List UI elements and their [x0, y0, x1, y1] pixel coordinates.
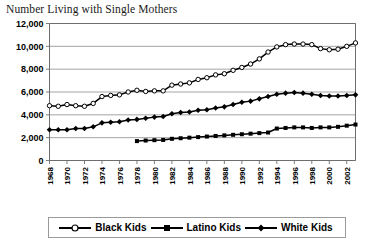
data-point	[82, 126, 88, 132]
data-point	[196, 77, 200, 81]
data-point	[73, 126, 79, 132]
data-point	[56, 104, 60, 108]
data-point	[213, 105, 219, 111]
data-point	[108, 119, 114, 125]
data-point	[47, 104, 51, 108]
data-point	[222, 104, 228, 110]
ytick-label: 12,000	[16, 19, 44, 29]
data-point	[99, 120, 105, 126]
ytick-label: 10,000	[16, 42, 44, 52]
data-point	[292, 42, 296, 46]
data-point	[239, 99, 245, 105]
data-point	[143, 89, 147, 93]
data-point	[301, 125, 305, 129]
data-point	[310, 126, 314, 130]
data-point	[310, 42, 314, 46]
data-point	[345, 44, 349, 48]
data-point	[152, 138, 156, 142]
ytick-label: 8,000	[21, 64, 44, 74]
data-point	[135, 88, 139, 92]
data-point	[64, 127, 70, 133]
data-point	[100, 94, 104, 98]
series-black-kids	[47, 41, 357, 109]
open-circle-icon	[58, 222, 92, 234]
data-point	[152, 89, 156, 93]
data-point	[266, 131, 270, 135]
data-point	[354, 123, 358, 127]
data-point	[125, 117, 131, 123]
data-point	[326, 93, 332, 99]
data-point	[170, 137, 174, 141]
data-point	[345, 124, 349, 128]
xtick-label: 1992	[256, 166, 265, 184]
data-point	[292, 90, 298, 96]
data-point	[117, 93, 121, 97]
data-point	[292, 125, 296, 129]
series-line	[137, 125, 356, 142]
series-line	[50, 93, 356, 130]
data-point	[353, 41, 357, 45]
data-point	[195, 107, 201, 113]
legend-item-white-kids[interactable]: White Kids	[244, 222, 336, 234]
data-point	[161, 89, 165, 93]
data-point	[249, 132, 253, 136]
xtick-label: 1994	[273, 166, 282, 184]
data-point	[169, 111, 175, 117]
data-point	[284, 126, 288, 130]
xtick-label: 2002	[343, 166, 352, 184]
data-point	[257, 96, 263, 102]
data-point	[222, 72, 226, 76]
chart-container: Number Living with Single Mothers 12,000…	[0, 0, 380, 245]
data-point	[344, 93, 350, 99]
data-point	[196, 135, 200, 139]
data-point	[179, 136, 183, 140]
data-point	[265, 94, 271, 100]
data-point	[170, 83, 174, 87]
series-latino-kids	[135, 123, 358, 144]
data-point	[90, 124, 96, 130]
data-point	[205, 135, 209, 139]
data-point	[327, 125, 331, 129]
xtick-label: 1988	[221, 166, 230, 184]
xtick-label: 1986	[203, 166, 212, 184]
xtick-label: 2000	[325, 166, 334, 184]
legend-item-label: Black Kids	[92, 222, 149, 233]
legend-item-latino-kids[interactable]: Latino Kids	[150, 222, 244, 234]
data-point	[109, 93, 113, 97]
data-point	[318, 46, 322, 50]
data-point	[213, 73, 217, 77]
legend-item-black-kids[interactable]: Black Kids	[58, 222, 149, 234]
data-point	[178, 82, 182, 86]
data-point	[318, 93, 324, 99]
data-point	[230, 102, 236, 108]
data-point	[187, 81, 191, 85]
data-point	[275, 127, 279, 131]
data-point	[301, 42, 305, 46]
xtick-label: 1990	[238, 166, 247, 184]
xtick-label: 1984	[186, 166, 195, 184]
data-point	[231, 133, 235, 137]
data-point	[266, 50, 270, 54]
data-point	[336, 47, 340, 51]
data-point	[248, 62, 252, 66]
xtick-label: 1974	[98, 166, 107, 184]
data-point	[161, 138, 165, 142]
data-point	[327, 48, 331, 52]
legend-item-label: Latino Kids	[184, 222, 244, 233]
filled-diamond-icon	[244, 222, 278, 234]
filled-square-icon	[150, 222, 184, 234]
ytick-label: 0	[38, 156, 43, 166]
data-point	[91, 101, 95, 105]
data-point	[187, 109, 193, 115]
data-point	[335, 93, 341, 99]
xtick-label: 1978	[133, 166, 142, 184]
series-line	[50, 43, 356, 106]
data-point	[222, 133, 226, 137]
data-point	[240, 132, 244, 136]
data-point	[126, 90, 130, 94]
xtick-label: 1976	[116, 166, 125, 184]
data-point	[74, 104, 78, 108]
data-point	[240, 65, 244, 69]
data-point	[82, 104, 86, 108]
legend-item-label: White Kids	[278, 222, 336, 233]
